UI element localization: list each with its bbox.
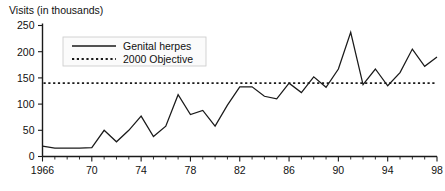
x-tick-label: 70 — [86, 164, 98, 176]
x-tick-label: 86 — [283, 164, 295, 176]
y-tick-label: 150 — [17, 72, 35, 84]
chart-plot-area: 050100150200250 19667074788286909498 Gen… — [0, 0, 445, 191]
x-tick-label: 1966 — [31, 164, 55, 176]
x-axis: 19667074788286909498 — [31, 157, 443, 176]
y-tick-label: 250 — [17, 19, 35, 31]
x-tick-label: 82 — [234, 164, 246, 176]
x-tick-label: 78 — [185, 164, 197, 176]
y-tick-label: 200 — [17, 46, 35, 58]
chart-legend: Genital herpes2000 Objective — [63, 37, 206, 66]
y-tick-label: 100 — [17, 98, 35, 110]
legend-item-label: Genital herpes — [123, 40, 191, 52]
y-tick-label: 50 — [23, 124, 35, 136]
x-tick-label: 94 — [382, 164, 394, 176]
y-tick-label: 0 — [29, 150, 35, 162]
legend-item-label: 2000 Objective — [123, 53, 193, 65]
x-tick-label: 90 — [333, 164, 345, 176]
x-tick-label: 98 — [431, 164, 443, 176]
x-tick-label: 74 — [135, 164, 147, 176]
y-axis: 050100150200250 — [17, 19, 43, 162]
herpes-visits-line-chart: Visits (in thousands) 050100150200250 19… — [0, 0, 445, 191]
